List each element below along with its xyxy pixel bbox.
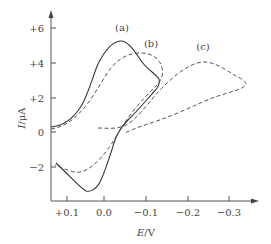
- y-tick-label: +4: [29, 58, 44, 69]
- x-tick-label: −0.3: [217, 207, 241, 218]
- y-axis-arrow-icon: [49, 10, 54, 18]
- x-axis-title: E/V: [136, 227, 156, 238]
- y-tick-label: −2: [29, 162, 44, 173]
- x-ticks: +0.1 0.0 −0.1 −0.2 −0.3: [55, 196, 241, 218]
- x-axis-arrow-icon: [251, 199, 259, 204]
- y-ticks: +6 +4 +2 0 −2: [29, 23, 56, 173]
- curve-a: [51, 41, 159, 191]
- cyclic-voltammogram-chart: +6 +4 +2 0 −2 +0.1 0.0 −0.1 −0.2 −0.3 E/…: [0, 0, 271, 244]
- y-tick-label: +6: [29, 23, 44, 34]
- y-tick-label: 0: [38, 127, 44, 138]
- y-tick-label: +2: [29, 93, 44, 104]
- y-axis-title: I/μA: [16, 107, 27, 130]
- x-tick-label: +0.1: [55, 207, 79, 218]
- curve-label-b: (b): [144, 38, 158, 49]
- curve-c: [98, 62, 246, 133]
- curve-label-a: (a): [115, 22, 129, 33]
- x-tick-label: −0.2: [176, 207, 200, 218]
- x-tick-label: −0.1: [134, 207, 158, 218]
- curve-b: [51, 53, 163, 172]
- x-tick-label: 0.0: [96, 207, 112, 218]
- chart-canvas: +6 +4 +2 0 −2 +0.1 0.0 −0.1 −0.2 −0.3 E/…: [0, 0, 271, 244]
- curve-label-c: (c): [196, 41, 210, 52]
